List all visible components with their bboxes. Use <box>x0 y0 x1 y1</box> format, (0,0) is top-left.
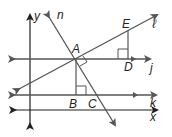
arrow-mark-k <box>133 92 138 98</box>
point-e-label: E <box>122 17 131 31</box>
geometry-diagram: y x n ℓ j k A B C D E <box>0 0 172 137</box>
point-b-label: B <box>69 97 77 111</box>
point-c-label: C <box>88 97 97 111</box>
line-k-label: k <box>150 96 157 110</box>
line-n <box>49 17 115 125</box>
right-angle-a <box>80 56 87 66</box>
x-axis-label: x <box>149 110 157 124</box>
point-d-label: D <box>124 60 133 74</box>
y-axis-label: y <box>33 9 41 23</box>
right-angle-b <box>76 86 86 95</box>
line-l <box>19 15 157 89</box>
right-angle-d <box>118 49 128 59</box>
line-l-label: ℓ <box>152 17 157 31</box>
diagram-svg: y x n ℓ j k A B C D E <box>0 0 172 137</box>
line-n-label: n <box>57 8 64 22</box>
point-a-label: A <box>71 42 80 56</box>
line-j-label: j <box>148 61 153 75</box>
